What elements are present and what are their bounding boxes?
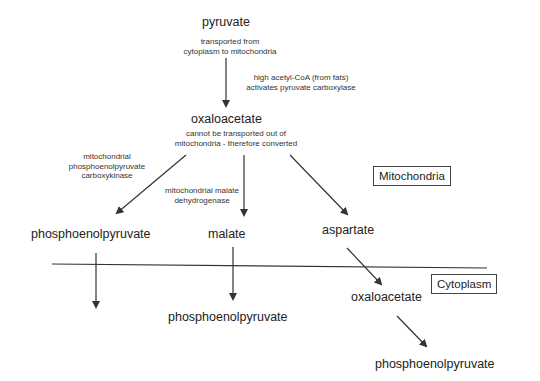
enzyme-mdh: mitochondrial malate dehydrogenase (160, 186, 244, 205)
note-activation-line1: high acetyl-CoA (from fats) (236, 73, 366, 83)
enzyme-pepck-line2: phosphoenolpyruvate (62, 162, 152, 172)
arrow-oxaloacetate-to-pep-cyto (397, 316, 426, 346)
membrane-line (52, 264, 487, 268)
enzyme-mdh-line1: mitochondrial malate (160, 186, 244, 196)
compound-pep-mito: phosphoenolpyruvate (31, 227, 151, 242)
note-transport-line1: transported from (180, 37, 280, 47)
arrow-aspartate-to-oxaloacetate (347, 248, 381, 284)
compound-pep-cyto: phosphoenolpyruvate (375, 357, 495, 372)
compound-aspartate: aspartate (322, 223, 374, 238)
note-oxaloacetate: cannot be transported out of mitochondri… (170, 129, 302, 148)
compound-pep-from-malate: phosphoenolpyruvate (168, 310, 288, 325)
note-oaa-line2: mitochondria - therefore converted (170, 139, 302, 149)
arrow-oxaloacetate-to-aspartate (290, 155, 347, 214)
note-activation: high acetyl-CoA (from fats) activates py… (236, 73, 366, 92)
note-transport: transported from cytoplasm to mitochondr… (180, 37, 280, 56)
enzyme-pepck: mitochondrial phosphoenolpyruvate carbox… (62, 152, 152, 181)
compound-malate: malate (208, 227, 246, 242)
note-activation-line2: activates pyruvate carboxylase (236, 83, 366, 93)
compound-oxaloacetate-mito: oxaloacetate (191, 112, 262, 127)
compound-pyruvate: pyruvate (202, 15, 250, 30)
note-transport-line2: cytoplasm to mitochondria (180, 47, 280, 57)
note-oaa-line1: cannot be transported out of (170, 129, 302, 139)
enzyme-pepck-line1: mitochondrial (62, 152, 152, 162)
enzyme-pepck-line3: carboxykinase (62, 171, 152, 181)
compartment-label-mitochondria: Mitochondria (373, 166, 451, 186)
compound-oxaloacetate-cyto: oxaloacetate (351, 290, 422, 305)
enzyme-mdh-line2: dehydrogenase (160, 196, 244, 206)
compartment-label-cytoplasm: Cytoplasm (431, 274, 497, 294)
